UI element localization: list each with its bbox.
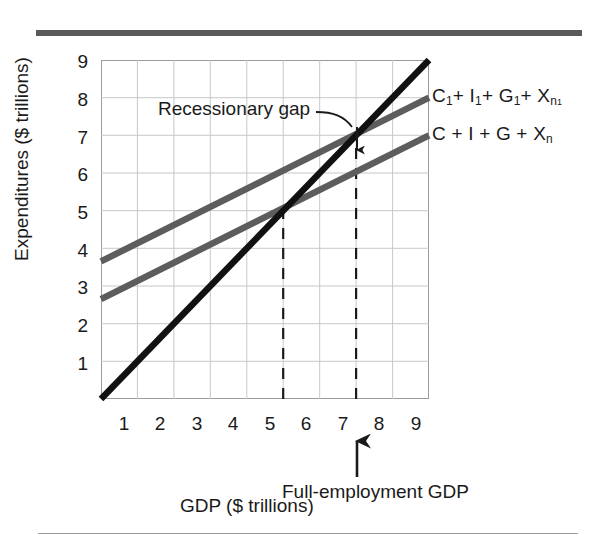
x-tick-7: 7 — [330, 414, 356, 433]
x-tick-5: 5 — [257, 414, 283, 433]
bottom-divider-rule — [38, 533, 578, 534]
recessionary-gap-label: Recessionary gap — [158, 98, 310, 120]
top-divider-rule — [36, 30, 582, 36]
series-label-upper-plus-x: + X — [521, 85, 551, 106]
y-tick-7: 7 — [62, 128, 88, 147]
series-label-upper-plus-i: + I — [453, 85, 475, 106]
series-label-upper-c-sub: 1 — [446, 94, 453, 108]
y-tick-6: 6 — [62, 165, 88, 184]
x-tick-6: 6 — [293, 414, 319, 433]
series-label-upper-x-subsub: 1 — [557, 97, 562, 107]
y-tick-2: 2 — [62, 316, 88, 335]
x-tick-3: 3 — [184, 414, 210, 433]
x-tick-1: 1 — [111, 414, 137, 433]
series-label-upper-c: C — [432, 85, 446, 106]
y-tick-8: 8 — [62, 90, 88, 109]
series-line-current-ae — [101, 135, 429, 299]
figure-container: Expenditures ($ trillions) 9 8 7 6 5 4 3… — [0, 0, 598, 557]
series-label-shifted-ae: C1+ I1+ G1+ Xn1 — [432, 85, 562, 108]
x-tick-8: 8 — [366, 414, 392, 433]
series-label-lower-main: C + I + G + X — [432, 123, 546, 144]
x-tick-4: 4 — [220, 414, 246, 433]
x-tick-9: 9 — [403, 414, 429, 433]
y-tick-1: 1 — [62, 354, 88, 373]
series-label-upper-plus-g: + G — [482, 85, 514, 106]
y-tick-5: 5 — [62, 203, 88, 222]
series-label-upper-g-sub: 1 — [514, 94, 521, 108]
series-label-upper-i-sub: 1 — [475, 94, 482, 108]
y-tick-3: 3 — [62, 278, 88, 297]
y-tick-4: 4 — [62, 241, 88, 260]
series-line-shifted-ae — [101, 98, 429, 262]
series-label-current-ae: C + I + G + Xn — [432, 123, 553, 146]
y-axis-title: Expenditures ($ trillions) — [11, 9, 33, 309]
full-employment-gdp-label: Full-employment GDP — [282, 481, 469, 503]
series-label-lower-x-sub: n — [546, 132, 553, 146]
y-tick-9: 9 — [62, 52, 88, 71]
x-tick-2: 2 — [147, 414, 173, 433]
